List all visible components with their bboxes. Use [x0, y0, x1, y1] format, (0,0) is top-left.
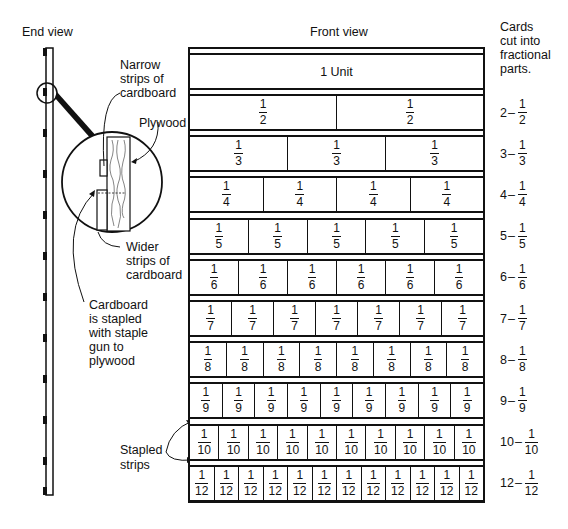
fraction-card: 112	[386, 467, 411, 500]
fraction-card: 110	[455, 426, 483, 459]
fraction-row-4: 14141414	[190, 176, 483, 213]
fraction: 18	[351, 345, 360, 374]
fraction: 19	[518, 386, 527, 415]
fraction-card: 14	[190, 178, 264, 211]
unit-row: 1 Unit	[190, 53, 483, 90]
fraction-card: 110	[190, 426, 219, 459]
fraction: 12	[406, 98, 415, 127]
fraction-card: 112	[239, 467, 264, 500]
fraction: 112	[367, 469, 380, 498]
fraction-card: 18	[447, 343, 483, 376]
fraction-card: 17	[316, 302, 358, 335]
side-label-3: 3–13	[500, 139, 527, 168]
side-header-2: cut into	[500, 34, 540, 48]
fraction-card: 12	[337, 96, 483, 129]
side-label-6: 6–16	[500, 263, 527, 292]
fraction: 110	[525, 428, 538, 457]
fraction-card: 112	[190, 467, 215, 500]
fraction: 110	[198, 428, 211, 457]
fraction-card: 18	[374, 343, 411, 376]
fraction: 112	[342, 469, 355, 498]
fraction: 112	[318, 469, 331, 498]
fraction-card: 13	[288, 137, 386, 170]
fraction-card: 19	[386, 384, 419, 417]
fraction-card: 15	[249, 220, 308, 253]
fraction: 18	[314, 345, 323, 374]
fraction-row-10: 110110110110110110110110110110	[190, 424, 483, 461]
fraction: 19	[463, 386, 472, 415]
fraction-card: 16	[190, 261, 239, 294]
fraction: 15	[518, 222, 527, 251]
fraction: 12	[259, 98, 268, 127]
fraction: 19	[365, 386, 374, 415]
fraction-card: 14	[264, 178, 338, 211]
fraction: 19	[430, 386, 439, 415]
side-label-8: 8–18	[500, 345, 527, 374]
fraction-card: 16	[386, 261, 435, 294]
fraction: 19	[234, 386, 243, 415]
fraction: 16	[210, 263, 219, 292]
fraction-card: 15	[190, 220, 249, 253]
fraction: 112	[269, 469, 282, 498]
fraction: 13	[518, 139, 527, 168]
fraction: 15	[215, 222, 224, 251]
fraction: 19	[332, 386, 341, 415]
fraction-card: 112	[337, 467, 362, 500]
fraction: 110	[462, 428, 475, 457]
fraction-card: 112	[362, 467, 387, 500]
fraction: 14	[442, 180, 451, 209]
fraction-card: 19	[288, 384, 321, 417]
fraction-card: 18	[264, 343, 301, 376]
fraction-card: 18	[337, 343, 374, 376]
fraction-card: 110	[425, 426, 454, 459]
fraction: 16	[406, 263, 415, 292]
fraction: 112	[391, 469, 404, 498]
fraction: 110	[256, 428, 269, 457]
fraction: 112	[416, 469, 429, 498]
fraction: 110	[315, 428, 328, 457]
fraction: 15	[391, 222, 400, 251]
fraction: 17	[416, 304, 425, 333]
fraction: 18	[204, 345, 213, 374]
side-header-3: fractional	[500, 48, 551, 62]
fraction: 15	[273, 222, 282, 251]
front-view-title: Front view	[310, 25, 368, 39]
fraction: 15	[450, 222, 459, 251]
fraction-card: 19	[353, 384, 386, 417]
fraction-card: 18	[411, 343, 448, 376]
fraction: 14	[518, 180, 527, 209]
fraction-card: 15	[308, 220, 367, 253]
fraction: 19	[201, 386, 210, 415]
fraction: 17	[518, 304, 527, 333]
fraction: 112	[195, 469, 208, 498]
fraction: 13	[332, 139, 341, 168]
fraction-row-6: 161616161616	[190, 259, 483, 296]
fraction-row-8: 1818181818181818	[190, 341, 483, 378]
fraction-card: 17	[442, 302, 483, 335]
fraction: 14	[295, 180, 304, 209]
fraction: 14	[222, 180, 231, 209]
fraction-card: 18	[190, 343, 227, 376]
fraction: 112	[465, 469, 478, 498]
fraction-card: 110	[308, 426, 337, 459]
fraction: 18	[240, 345, 249, 374]
fraction-card: 13	[386, 137, 483, 170]
fraction: 110	[433, 428, 446, 457]
callout-stapled-3: with staple	[89, 326, 148, 340]
fraction-card: 112	[460, 467, 484, 500]
fraction-card: 17	[400, 302, 442, 335]
side-label-10: 10–110	[500, 428, 538, 457]
fraction: 17	[332, 304, 341, 333]
callout-stapled-2: is stapled	[89, 312, 142, 326]
fraction: 17	[248, 304, 257, 333]
fraction: 110	[227, 428, 240, 457]
fraction-card: 18	[300, 343, 337, 376]
fraction-card: 14	[411, 178, 484, 211]
fraction-row-3: 131313	[190, 135, 483, 172]
fraction-card: 110	[366, 426, 395, 459]
fraction-card: 19	[451, 384, 483, 417]
fraction: 18	[387, 345, 396, 374]
fraction-card: 18	[227, 343, 264, 376]
side-label-9: 9–19	[500, 386, 527, 415]
fraction-card: 14	[337, 178, 411, 211]
